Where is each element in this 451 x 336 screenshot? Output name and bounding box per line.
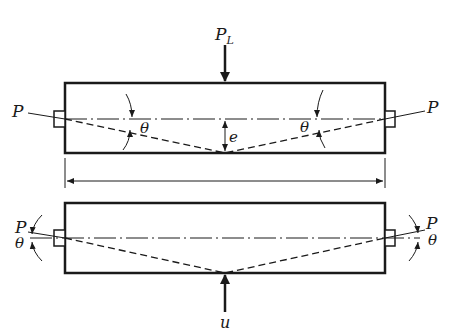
bottom-left-angle-arc-upper: [32, 215, 42, 234]
bottom-right-force-label: P: [425, 213, 438, 233]
bottom-right-angle-label: θ: [428, 231, 437, 249]
upward-force-label: u: [220, 313, 230, 332]
eccentricity-label: e: [229, 128, 238, 146]
bottom-panel: P θ P θ u: [14, 203, 438, 332]
bottom-right-angle-arc-lower: [409, 242, 418, 261]
top-right-angle-arc-lower: [319, 130, 325, 148]
bottom-tendon-profile: [65, 238, 385, 273]
top-left-force-label: P: [11, 101, 24, 121]
top-right-angle-arc-upper: [317, 90, 323, 117]
top-right-force-label: P: [426, 97, 439, 117]
bottom-left-angle-label: θ: [15, 234, 24, 252]
top-left-angle-arc-lower: [123, 130, 130, 150]
top-panel: PL e θ θ P P: [11, 24, 439, 153]
top-left-angle-arc-upper: [126, 94, 132, 117]
span-dimension: [65, 158, 385, 188]
top-left-angle-label: θ: [140, 119, 149, 137]
bottom-right-angle-arc-upper: [409, 215, 418, 233]
beam-diagram: PL e θ θ P P: [0, 0, 451, 336]
top-right-angle-label: θ: [300, 118, 309, 136]
bottom-left-angle-arc-lower: [32, 242, 42, 261]
load-label: PL: [214, 24, 234, 47]
